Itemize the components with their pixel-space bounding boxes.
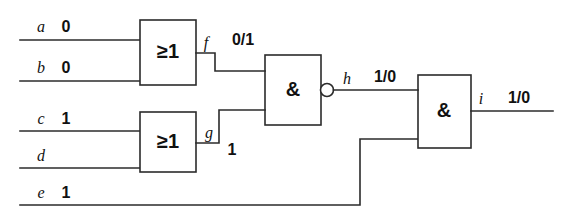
or-gate-2-label: ≥1 — [157, 130, 179, 152]
wire-input-e — [20, 139, 418, 205]
signal-label-h: h — [343, 70, 351, 87]
signal-value-f: 0/1 — [232, 31, 254, 48]
circuit-canvas: ≥1 ≥1 & & a 0 b 0 c 1 d e 1 f 0/1 g 1 — [0, 0, 569, 212]
signal-label-g: g — [205, 124, 213, 142]
signal-value-i: 1/0 — [508, 89, 530, 106]
input-label-b: b — [37, 59, 45, 76]
and-gate-label: & — [437, 99, 451, 121]
or-gate-1-label: ≥1 — [157, 40, 179, 62]
input-value-e: 1 — [62, 184, 71, 201]
nand-gate-inversion-bubble-icon — [321, 84, 334, 97]
input-label-d: d — [37, 147, 46, 164]
input-label-e: e — [37, 184, 44, 201]
input-value-a: 0 — [62, 18, 71, 35]
signal-value-g: 1 — [228, 141, 237, 158]
input-value-c: 1 — [62, 110, 71, 127]
input-label-a: a — [37, 18, 45, 35]
logic-circuit-diagram: ≥1 ≥1 & & a 0 b 0 c 1 d e 1 f 0/1 g 1 — [0, 0, 569, 212]
wire-signal-f — [196, 53, 265, 71]
signal-label-f: f — [204, 34, 211, 52]
signal-label-i: i — [479, 90, 483, 107]
input-label-c: c — [37, 110, 44, 127]
input-value-b: 0 — [62, 59, 71, 76]
nand-gate-label: & — [286, 78, 300, 100]
signal-value-h: 1/0 — [374, 68, 396, 85]
